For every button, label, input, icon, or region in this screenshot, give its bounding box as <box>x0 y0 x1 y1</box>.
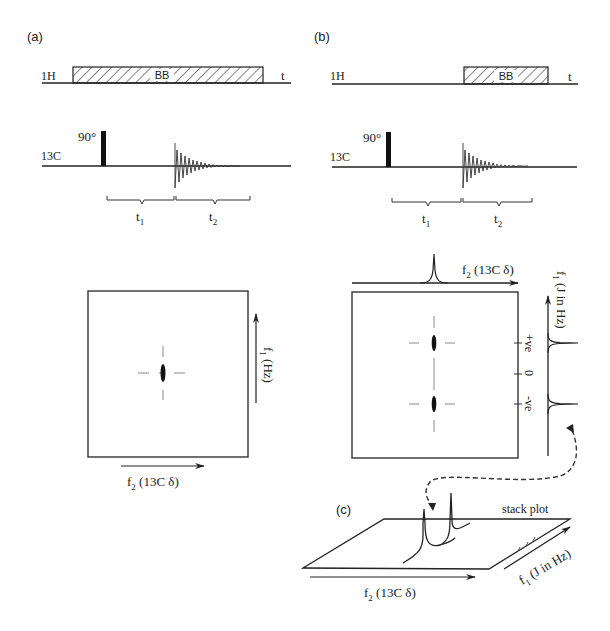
panel-a-label: (a) <box>27 29 43 44</box>
f1-projection-peak-negative <box>548 394 578 414</box>
stack-peak-negative <box>403 509 455 563</box>
pulse-90-b <box>386 132 391 167</box>
panel-b-label: (b) <box>314 29 330 44</box>
t2-label-b: t2 <box>494 211 502 229</box>
c13-channel-label: 13C <box>41 149 61 163</box>
bb-label-b: BB <box>499 70 514 82</box>
stack-plot-title: stack plot <box>502 502 549 516</box>
h1-channel-label: 1H <box>41 69 56 83</box>
t2-brace <box>176 196 250 204</box>
cross-peak-positive <box>432 335 437 351</box>
f1-axis-label-c: f1 (J in Hz) <box>516 546 575 590</box>
crosshair-b <box>409 316 455 432</box>
2d-spectrum-box-a <box>88 291 248 457</box>
h1-channel-label-b: 1H <box>330 69 345 83</box>
dashed-connector <box>426 430 576 506</box>
tick-zero: 0 <box>522 370 536 376</box>
pulse-label-b: 90° <box>363 130 381 145</box>
connector-arrowhead-bottom <box>428 503 436 511</box>
f2-axis-label-a: f2 (13C δ) <box>127 474 179 492</box>
f1-axis-label-a: f1 (Hz) <box>258 347 276 383</box>
connector-arrowhead-top <box>566 424 574 433</box>
tick-negative: -ve <box>522 396 536 411</box>
tick-positive: +ve <box>522 334 536 352</box>
t1-label-b: t1 <box>422 211 430 229</box>
cross-peak-negative <box>432 396 437 412</box>
t1-brace-b <box>392 198 461 206</box>
panel-c: (c) stack plot f2 (13C δ) f1 (J in Hz) <box>303 493 575 603</box>
t2-label: t2 <box>209 209 217 227</box>
f2-projection-peak <box>420 254 448 283</box>
f2-axis-label-b: f2 (13C δ) <box>462 262 514 280</box>
fid-signal-b <box>463 143 528 188</box>
panel-a: (a) 1H BB t 13C 90° t1 t2 f1 (Hz) <box>27 29 291 492</box>
f1-projection-peak-positive <box>548 333 578 353</box>
t1-brace <box>107 196 174 204</box>
pulse-label: 90° <box>78 129 96 144</box>
time-label: t <box>281 68 285 83</box>
t1-label: t1 <box>136 209 144 227</box>
cross-peak-a <box>161 364 166 382</box>
t2-brace-b <box>463 198 532 206</box>
pulse-90 <box>101 131 106 166</box>
f2-axis-label-c: f2 (13C δ) <box>364 585 416 603</box>
nmr-diagram: (a) 1H BB t 13C 90° t1 t2 f1 (Hz) <box>0 0 610 631</box>
bb-label: BB <box>155 69 170 81</box>
f1-axis-label-b: f1 (J in Hz) <box>551 271 569 329</box>
panel-b: (b) 1H BB t 13C 90° t1 t2 f2 (13C δ) <box>314 29 578 511</box>
2d-spectrum-box-b <box>352 292 518 458</box>
time-label-b: t <box>568 69 572 84</box>
stack-plot-plane <box>303 519 570 569</box>
panel-c-label: (c) <box>336 502 351 517</box>
c13-channel-label-b: 13C <box>330 150 350 164</box>
